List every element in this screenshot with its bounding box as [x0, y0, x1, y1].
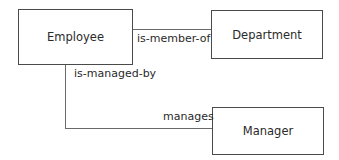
entity-employee: Employee — [18, 9, 133, 65]
relationship-label-manages: manages — [163, 110, 214, 123]
entity-manager-label: Manager — [243, 124, 293, 138]
relationship-label-is-member-of: is-member-of — [137, 32, 210, 45]
entity-department-label: Department — [232, 28, 302, 42]
connector-managed-vertical — [65, 65, 66, 129]
connector-is-member-of — [133, 29, 211, 30]
relationship-label-is-managed-by: is-managed-by — [74, 67, 156, 80]
connector-managed-horizontal — [65, 128, 212, 129]
entity-manager: Manager — [212, 107, 324, 155]
entity-employee-label: Employee — [47, 30, 104, 44]
entity-department: Department — [211, 10, 323, 59]
